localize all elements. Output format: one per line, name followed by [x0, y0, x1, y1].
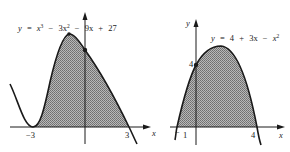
shaded-area-cubic	[33, 34, 129, 127]
x-axis-label-cubic: x	[151, 128, 156, 138]
x-tick-4: 4	[251, 130, 256, 140]
y-tick-4: 4	[189, 59, 194, 69]
x-tick-neg1: 1	[183, 130, 187, 140]
x-axis-arrow-icon	[143, 125, 151, 130]
y-intercept-point-quadratic	[194, 63, 198, 67]
x-tick-3: 3	[125, 130, 129, 140]
figure: x −3 3 y = x3 − 3x2 − 9x + 27 x	[0, 0, 290, 152]
x-axis-label-quadratic: x	[278, 130, 283, 140]
peak-point	[67, 32, 71, 36]
x-tick-neg3: −3	[26, 130, 35, 140]
graph-cubic: x −3 3 y = x3 − 3x2 − 9x + 27	[10, 12, 156, 144]
y-axis-arrow-icon	[83, 12, 88, 20]
x-tick-neg1-minus: −	[175, 127, 180, 137]
y-intercept-point-cubic	[83, 48, 87, 52]
equation-quadratic: y = 4 + 3x − x2	[210, 33, 279, 43]
equation-cubic: y = x3 − 3x2 − 9x + 27	[17, 20, 117, 33]
y-axis-arrow-icon	[194, 19, 199, 27]
graph-quadratic: x y 4 − 1 4 y = 4 + 3x − x2	[170, 18, 285, 145]
y-axis-label-quadratic: y	[185, 18, 190, 28]
x-axis-arrow-icon	[277, 125, 285, 130]
